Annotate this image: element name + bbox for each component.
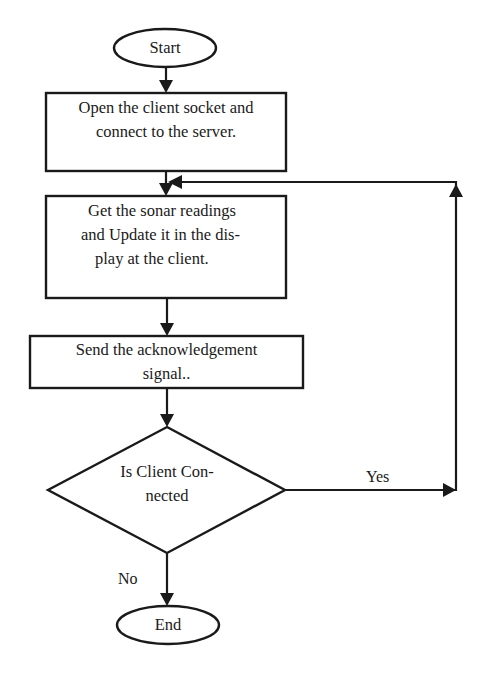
edge-label-yes: Yes	[366, 465, 389, 489]
open-socket-line-2: connect to the server.	[46, 120, 286, 144]
arrowhead-down-icon	[160, 414, 174, 427]
arrowhead-down-icon	[159, 183, 173, 196]
decision-label: Is Client Con- nected	[97, 460, 237, 508]
decision-line-2: nected	[97, 484, 237, 508]
send-ack-label: Send the acknowledgement signal..	[30, 338, 303, 386]
decision-line-1: Is Client Con-	[97, 460, 237, 484]
start-text: Start	[115, 36, 215, 60]
arrowhead-right-icon	[443, 483, 456, 497]
start-label: Start	[115, 36, 215, 60]
get-readings-line-2: and Update it in the dis-	[74, 223, 286, 247]
get-readings-line-3: play at the client.	[74, 247, 286, 271]
send-ack-line-2: signal..	[30, 362, 303, 386]
edge-label-no: No	[118, 567, 138, 591]
arrowhead-down-icon	[160, 323, 174, 336]
arrowhead-up-icon	[449, 184, 463, 197]
arrowhead-down-icon	[160, 593, 174, 606]
open-socket-label: Open the client socket and connect to th…	[46, 96, 286, 144]
get-readings-label: Get the sonar readings and Update it in …	[74, 199, 286, 271]
end-label: End	[118, 613, 218, 637]
end-text: End	[118, 613, 218, 637]
open-socket-line-1: Open the client socket and	[46, 96, 286, 120]
send-ack-line-1: Send the acknowledgement	[30, 338, 303, 362]
get-readings-line-1: Get the sonar readings	[74, 199, 286, 223]
arrowhead-down-icon	[159, 80, 173, 93]
